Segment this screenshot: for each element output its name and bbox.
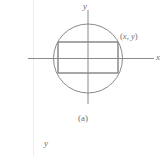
- figure-graphic: [0, 0, 166, 156]
- figure-container: y x (x, y) (a) y: [0, 0, 166, 156]
- x-axis-label: x: [156, 53, 160, 62]
- y-axis-label: y: [83, 2, 87, 11]
- point-label-close-paren: ): [135, 31, 138, 41]
- point-coordinate-label: (x, y): [120, 32, 138, 41]
- figure-caption: (a): [0, 113, 166, 123]
- next-figure-y-axis-label: y: [44, 139, 48, 148]
